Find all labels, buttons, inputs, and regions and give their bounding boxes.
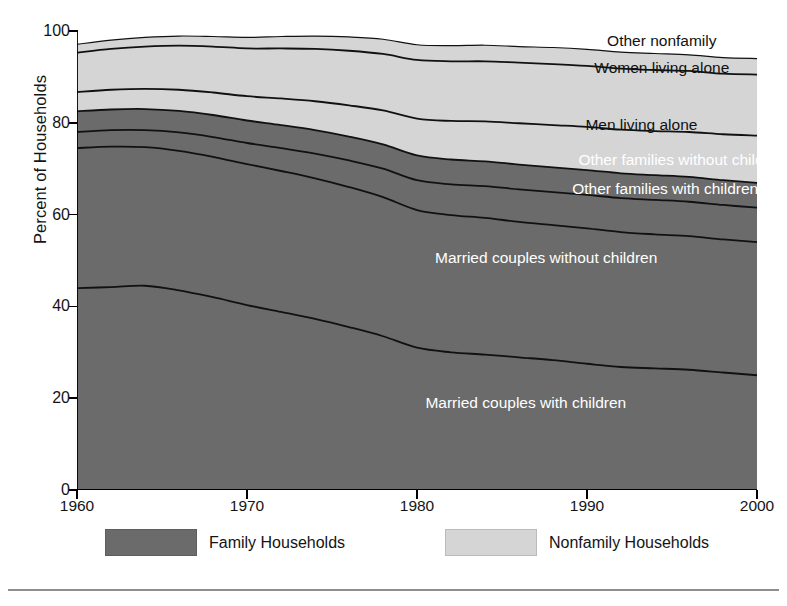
- x-tick-label: 1980: [400, 497, 434, 515]
- x-tick-label: 2000: [740, 497, 774, 515]
- legend-item[interactable]: Nonfamily Households: [445, 529, 709, 556]
- y-tick-label: 60: [26, 206, 70, 224]
- band-label: Married couples with children: [425, 395, 626, 411]
- x-tick-label: 1970: [230, 497, 264, 515]
- chart-figure: Percent of Households 020406080100 19601…: [0, 0, 787, 606]
- x-tick-label: 1960: [60, 497, 94, 515]
- legend-label: Nonfamily Households: [549, 534, 709, 552]
- band-label: Married couples without children: [435, 250, 657, 266]
- plot-area: Other nonfamilyWomen living aloneMen liv…: [77, 31, 757, 490]
- legend-swatch: [445, 529, 537, 556]
- band-label: Men living alone: [585, 117, 697, 133]
- y-tick-label: 20: [26, 389, 70, 407]
- band-label: Other families with children: [572, 182, 758, 198]
- x-tick-mark: [416, 490, 418, 499]
- bottom-divider-rule: [8, 589, 779, 591]
- y-tick-label: 80: [26, 114, 70, 132]
- y-axis-tick-labels: 020406080100: [18, 0, 70, 606]
- band-label: Other families without children: [578, 152, 786, 168]
- x-tick-mark: [756, 490, 758, 499]
- y-tick-label: 100: [26, 22, 70, 40]
- legend-label: Family Households: [209, 534, 345, 552]
- x-tick-mark: [76, 490, 78, 499]
- x-tick-mark: [586, 490, 588, 499]
- legend-item[interactable]: Family Households: [105, 529, 345, 556]
- y-tick-label: 40: [26, 297, 70, 315]
- x-tick-label: 1990: [570, 497, 604, 515]
- x-tick-mark: [246, 490, 248, 499]
- band-label: Women living alone: [594, 60, 729, 76]
- legend-swatch: [105, 529, 197, 556]
- band-label: Other nonfamily: [607, 33, 716, 49]
